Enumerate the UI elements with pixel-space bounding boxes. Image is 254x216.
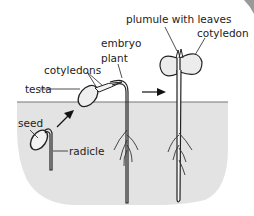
label-testa: testa <box>25 83 52 95</box>
label-cotyledons: cotyledons <box>44 64 101 76</box>
label-radicle: radicle <box>69 145 104 157</box>
label-plant: plant <box>101 52 128 64</box>
label-embryo: embryo <box>101 37 141 49</box>
label-plumule: plumule with leaves <box>126 13 231 25</box>
corner-shape <box>244 0 254 14</box>
label-cotyledon: cotyledon <box>197 27 249 39</box>
cotyledon-pointer <box>195 38 205 55</box>
cotyledon-right <box>180 54 202 75</box>
label-seed: seed <box>18 117 43 129</box>
soil-region <box>17 102 228 205</box>
embryo-pointer <box>118 64 122 78</box>
arrow-icon <box>142 88 166 96</box>
plumule-pointer <box>165 27 177 51</box>
germination-diagram: seed seed radicle testa cotyledons embry… <box>0 0 254 216</box>
cotyledon-left <box>160 56 177 76</box>
